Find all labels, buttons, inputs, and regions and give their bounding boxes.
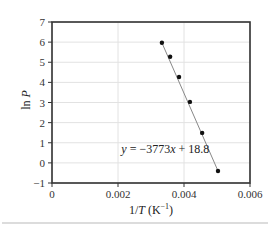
- x-tick-label: 0.004: [172, 188, 197, 200]
- x-tick-label: 0: [49, 188, 55, 200]
- y-tick-label: 3: [40, 97, 46, 109]
- y-tick-label: 4: [40, 76, 46, 88]
- fit-equation: y = −3773x + 18.8: [120, 142, 209, 156]
- data-point: [160, 41, 164, 45]
- y-tick-label: 0: [40, 157, 46, 169]
- x-tick-label: 0.002: [106, 188, 131, 200]
- data-point: [188, 100, 192, 104]
- y-tick-label: 5: [40, 56, 46, 68]
- y-tick-label: −1: [33, 177, 45, 189]
- y-axis-label: ln P: [19, 90, 33, 110]
- y-tick-label: 6: [40, 36, 46, 48]
- grid-lines: [52, 22, 250, 183]
- y-tick-label: 2: [40, 117, 46, 129]
- data-point: [177, 75, 181, 79]
- x-axis-label: 1/T (K−1): [129, 202, 173, 217]
- data-point: [200, 131, 204, 135]
- x-axis-ticks: 00.0020.0040.006: [49, 183, 263, 200]
- data-point: [216, 169, 220, 173]
- x-tick-label: 0.006: [238, 188, 263, 200]
- y-axis-ticks: −101234567: [33, 16, 52, 189]
- y-tick-label: 1: [40, 137, 46, 149]
- y-tick-label: 7: [40, 16, 46, 28]
- divider: [2, 222, 268, 224]
- data-point: [168, 55, 172, 59]
- chart: −101234567 00.0020.0040.006 y = −3773x +…: [0, 0, 275, 235]
